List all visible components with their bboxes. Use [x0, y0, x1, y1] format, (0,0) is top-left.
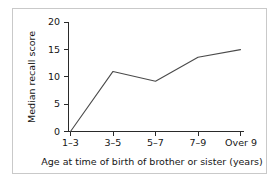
y-axis-title: Median recall score — [26, 31, 37, 123]
y-tick-label-10: 10 — [48, 71, 60, 82]
x-tick-label-3: 7–9 — [190, 137, 207, 148]
chart-figure: 0 5 10 15 20 1–3 3–5 5–7 7–9 Over 9 Medi… — [0, 0, 278, 182]
x-tick-label-1: 3–5 — [105, 137, 122, 148]
y-tick-label-15: 15 — [48, 44, 60, 55]
data-series-line — [71, 50, 241, 132]
y-tick-label-20: 20 — [48, 16, 60, 27]
x-tick-label-2: 5–7 — [147, 137, 164, 148]
line-chart: 0 5 10 15 20 1–3 3–5 5–7 7–9 Over 9 Medi… — [0, 0, 278, 182]
y-tick-label-0: 0 — [54, 126, 60, 137]
x-axis-title: Age at time of birth of brother or siste… — [41, 156, 263, 167]
x-tick-label-0: 1–3 — [62, 137, 79, 148]
x-tick-label-4: Over 9 — [225, 137, 257, 148]
y-tick-label-5: 5 — [54, 98, 60, 109]
